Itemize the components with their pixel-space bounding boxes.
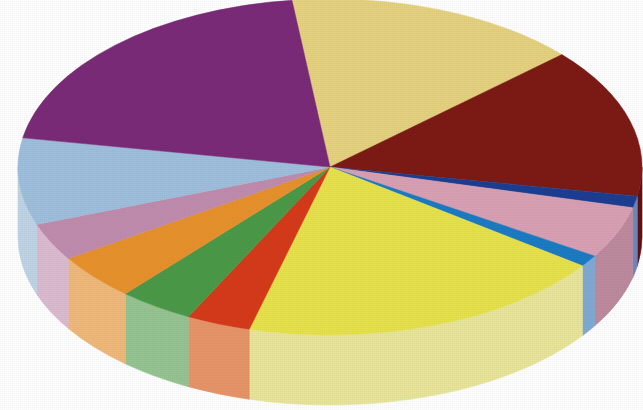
pie-chart-figure: Slice 1 — 15.3%Slice 2 — 14.4%Slice 3 — … — [0, 0, 643, 410]
pie-top-surface: Slice 1 — 15.3%Slice 2 — 14.4%Slice 3 — … — [18, 0, 642, 335]
pie-slice-purple[interactable]: Slice 12 — 20.3% — [23, 0, 330, 167]
pie-chart-canvas: Slice 1 — 15.3%Slice 2 — 14.4%Slice 3 — … — [0, 0, 643, 410]
pie-slice-rim-medium-blue — [582, 256, 594, 336]
pie-slice-rim-navy-blue — [633, 196, 638, 277]
pie-slice-rim-red-orange — [188, 317, 249, 400]
